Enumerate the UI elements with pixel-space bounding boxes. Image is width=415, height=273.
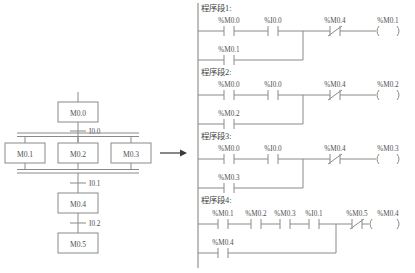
contact-label: %M0.0 [218,145,240,153]
contact-label: %I0.0 [264,145,282,153]
sfc-step-label: M0.4 [70,200,86,209]
coil-arc-right [397,154,399,164]
ladder-network-3[interactable]: 程序段3: %M0.0 %I0.0 [198,131,399,193]
coil-m01[interactable]: %M0.1 [377,17,399,36]
branch-contact-m03[interactable]: %M0.3 [198,174,303,193]
contact-label: %M0.4 [324,145,346,153]
coil-arc-left [370,219,372,229]
sfc-step-label: M0.3 [123,150,139,159]
branch-contact-m02[interactable]: %M0.2 [198,110,303,129]
network-title: 程序段4: [201,195,232,205]
contact-m00[interactable]: %M0.0 [218,81,264,100]
contact-m03[interactable]: %M0.3 [274,210,303,229]
coil-m03[interactable]: %M0.3 [377,145,399,164]
contact-label: %I0.0 [264,17,282,25]
contact-label: %M0.1 [212,210,234,218]
coil-label: %M0.2 [377,81,399,89]
contact-m04-nc[interactable]: %M0.4 [303,145,376,164]
contact-label: %M0.4 [324,17,346,25]
ladder-network-2[interactable]: 程序段2: %M0.0 %I0.0 [198,67,399,129]
sfc-step-m01[interactable]: M0.1 [5,143,45,163]
sfc-step-label: M0.1 [17,150,33,159]
ladder-diagram: 程序段1: %M0.0 %I0.0 [198,3,399,268]
contact-label: %M0.1 [218,46,240,54]
coil-arc-left [377,26,379,36]
network-title: 程序段3: [201,131,232,141]
contact-i00[interactable]: %I0.0 [264,81,303,100]
sfc-chart: M0.0 I0.0 M0.1 [5,92,151,253]
coil-m02[interactable]: %M0.2 [377,81,399,100]
contact-m02[interactable]: %M0.2 [245,210,274,229]
coil-label: %M0.1 [377,17,399,25]
contact-label: %M0.0 [218,81,240,89]
contact-m01[interactable]: %M0.1 [212,210,246,229]
contact-label: %M0.2 [245,210,267,218]
coil-arc-left [377,154,379,164]
contact-i01[interactable]: %I0.1 [303,210,336,229]
contact-label: %M0.4 [212,239,234,247]
contact-m00[interactable]: %M0.0 [218,145,264,164]
contact-label: %M0.4 [324,81,346,89]
contact-m00[interactable]: %M0.0 [218,17,264,36]
sfc-step-m05[interactable]: M0.5 [58,233,98,253]
coil-arc-right [397,26,399,36]
diagram-canvas: M0.0 I0.0 M0.1 [0,0,415,273]
contact-m05-nc[interactable]: %M0.5 [336,210,369,229]
sfc-step-label: M0.5 [70,240,86,249]
coil-m04[interactable]: %M0.4 [370,210,399,229]
sfc-transition-label: I0.2 [89,220,101,228]
contact-label: %I0.0 [264,81,282,89]
contact-label: %M0.3 [218,174,240,182]
ladder-network-1[interactable]: 程序段1: %M0.0 %I0.0 [198,3,399,65]
conversion-arrow-icon [160,150,187,157]
sfc-step-m03[interactable]: M0.3 [111,143,151,163]
sfc-step-m00[interactable]: M0.0 [58,102,98,122]
contact-label: %M0.5 [346,210,368,218]
contact-i00[interactable]: %I0.0 [264,17,303,36]
sfc-transition-i01[interactable]: I0.1 [70,180,101,188]
contact-i00[interactable]: %I0.0 [264,145,303,164]
network-title: 程序段1: [201,3,232,13]
sfc-step-label: M0.2 [70,150,86,159]
contact-label: %M0.2 [218,110,240,118]
sfc-step-m04[interactable]: M0.4 [58,193,98,213]
coil-label: %M0.3 [377,145,399,153]
contact-m04-nc[interactable]: %M0.4 [303,17,376,36]
sfc-parallel-convergence [17,170,139,174]
sfc-transition-label: I0.1 [89,180,101,188]
sfc-transition-label: I0.0 [89,128,101,136]
contact-label: %I0.1 [305,210,323,218]
coil-label: %M0.4 [377,210,399,218]
sfc-step-m02[interactable]: M0.2 [58,143,98,163]
sfc-transition-i02[interactable]: I0.2 [70,220,101,228]
diagram-root: M0.0 I0.0 M0.1 [0,0,415,273]
branch-contact-m01[interactable]: %M0.1 [198,46,303,65]
arrow-head [180,150,187,157]
sfc-step-label: M0.0 [70,109,86,118]
contact-m04-nc[interactable]: %M0.4 [303,81,376,100]
coil-arc-right [397,219,399,229]
sfc-transition-i00[interactable]: I0.0 [70,128,101,136]
network-title: 程序段2: [201,67,232,77]
coil-arc-right [397,90,399,100]
branch-contact-m04[interactable]: %M0.4 [198,239,336,258]
contact-label: %M0.0 [218,17,240,25]
ladder-network-4[interactable]: 程序段4: %M0.1 %M0.2 [198,195,399,258]
contact-label: %M0.3 [274,210,296,218]
coil-arc-left [377,90,379,100]
